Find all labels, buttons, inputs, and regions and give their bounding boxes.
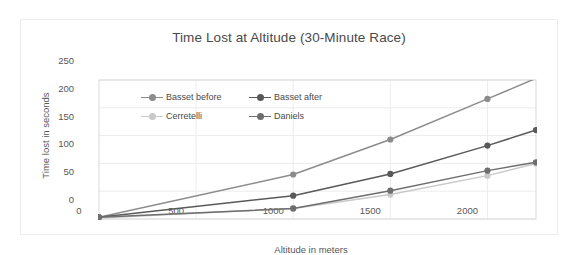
- data-point: [484, 96, 490, 102]
- legend-label: Cerretelli: [166, 111, 202, 121]
- x-tick-label: 1500: [350, 205, 390, 216]
- legend-item-daniels[interactable]: Daniels: [249, 111, 357, 121]
- legend-marker-icon: [249, 93, 271, 102]
- chart-legend: Basset beforeBasset afterCerretelliDanie…: [141, 92, 391, 121]
- x-axis-title: Altitude in meters: [21, 244, 580, 255]
- x-tick-label: 0: [59, 205, 99, 216]
- y-tick-label: 0: [48, 194, 74, 205]
- x-tick-label: 500: [156, 205, 196, 216]
- y-tick-label: 100: [48, 138, 74, 149]
- plot-area: [21, 20, 580, 255]
- chart-title: Time Lost at Altitude (30-Minute Race): [21, 30, 557, 45]
- data-point: [387, 136, 393, 142]
- chart-card: Time Lost at Altitude (30-Minute Race) T…: [20, 19, 558, 235]
- data-point: [387, 191, 393, 197]
- legend-marker-icon: [249, 112, 271, 121]
- data-point: [533, 127, 539, 133]
- y-tick-label: 200: [48, 83, 74, 94]
- legend-marker-icon: [141, 93, 163, 102]
- legend-marker-icon: [141, 112, 163, 121]
- data-point: [387, 171, 393, 177]
- y-tick-label: 250: [48, 55, 74, 66]
- legend-item-basset-after[interactable]: Basset after: [249, 92, 357, 102]
- legend-item-basset-before[interactable]: Basset before: [141, 92, 249, 102]
- y-tick-label: 150: [48, 111, 74, 122]
- legend-label: Daniels: [274, 111, 304, 121]
- x-tick-label: 1000: [253, 205, 293, 216]
- data-point: [290, 171, 296, 177]
- data-point: [484, 168, 490, 174]
- legend-item-cerretelli[interactable]: Cerretelli: [141, 111, 249, 121]
- legend-label: Basset before: [166, 92, 222, 102]
- data-point: [484, 173, 490, 179]
- legend-label: Basset after: [274, 92, 322, 102]
- x-tick-label: 2000: [447, 205, 487, 216]
- y-tick-label: 50: [48, 166, 74, 177]
- data-point: [533, 160, 539, 166]
- data-point: [290, 193, 296, 199]
- data-point: [533, 159, 539, 165]
- data-point: [387, 188, 393, 194]
- data-point: [484, 143, 490, 149]
